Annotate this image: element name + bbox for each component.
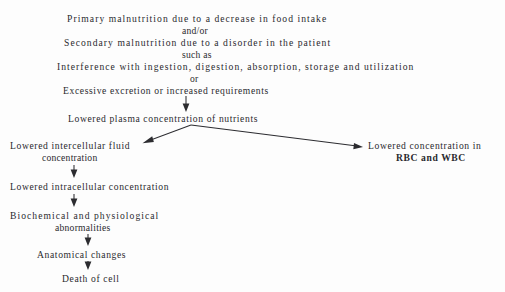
connector-such-as: such as xyxy=(182,49,212,61)
connector-or: or xyxy=(190,73,199,85)
node-lowered-intercellular-fluid-line1: Lowered intercellular fluid xyxy=(10,140,130,152)
flowchart-canvas: Primary malnutrition due to a decrease i… xyxy=(0,0,505,292)
node-lowered-intracellular-concentration: Lowered intracellular concentration xyxy=(10,181,169,193)
node-lowered-plasma-concentration: Lowered plasma concentration of nutrient… xyxy=(68,113,258,125)
node-lowered-rbc-wbc-line1: Lowered concentration in xyxy=(368,140,481,152)
arrow-intracellular-to-biochemical xyxy=(71,194,78,207)
connector-and-or: and/or xyxy=(182,25,208,37)
node-death-of-cell: Death of cell xyxy=(62,273,120,285)
arrow-biochemical-to-anatomical xyxy=(85,234,92,246)
node-lowered-intercellular-fluid-line2: concentration xyxy=(42,152,97,164)
node-secondary-malnutrition: Secondary malnutrition due to a disorder… xyxy=(64,37,331,49)
node-primary-malnutrition: Primary malnutrition due to a decrease i… xyxy=(67,13,327,25)
node-anatomical-changes: Anatomical changes xyxy=(37,249,126,261)
arrow-anatomical-to-death xyxy=(85,261,92,270)
node-biochemical-abnormalities-line2: abnormalities xyxy=(55,222,110,234)
arrow-plasma-to-intercellular xyxy=(143,125,192,143)
node-excessive-excretion: Excessive excretion or increased require… xyxy=(63,85,269,97)
arrow-plasma-to-rbc xyxy=(191,125,363,149)
arrow-excessive-to-plasma xyxy=(183,96,190,112)
node-interference: Interference with ingestion, digestion, … xyxy=(57,61,414,73)
node-biochemical-abnormalities-line1: Biochemical and physiological xyxy=(10,210,159,222)
node-lowered-rbc-wbc-line2: RBC and WBC xyxy=(396,152,466,164)
arrow-intercellular-to-intracellular xyxy=(71,165,78,178)
